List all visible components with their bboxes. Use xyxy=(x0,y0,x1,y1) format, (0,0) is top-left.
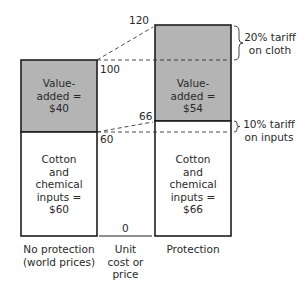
dashed-diagonal-100-120 xyxy=(97,27,153,60)
dashed-diagonal-60-66 xyxy=(97,122,153,132)
tick-label-120: 120 xyxy=(129,14,149,26)
right-bar-caption: Protection xyxy=(155,243,231,256)
right-inputs-label: Cotton and chemical inputs = $66 xyxy=(155,153,231,216)
left-bar-caption: No protection (world prices) xyxy=(6,243,112,268)
right-value-added-label: Value- added = $54 xyxy=(155,77,231,115)
axis-label: Unit cost or price xyxy=(99,243,152,281)
input-tariff-annotation: 10% tariff on inputs xyxy=(238,118,300,143)
tick-label-0: 0 xyxy=(122,222,129,234)
tick-label-100: 100 xyxy=(100,63,120,75)
left-inputs-label: Cotton and chemical inputs = $60 xyxy=(21,153,97,216)
tick-label-60: 60 xyxy=(100,133,113,145)
tick-label-66: 66 xyxy=(139,110,152,122)
cloth-tariff-annotation: 20% tariff on cloth xyxy=(240,31,300,56)
left-value-added-label: Value- added = $40 xyxy=(21,77,97,115)
